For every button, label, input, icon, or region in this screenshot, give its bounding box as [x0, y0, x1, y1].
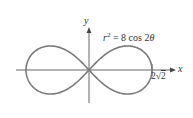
x-axis-label: x — [178, 63, 182, 74]
eq-theta: θ — [149, 32, 154, 43]
equation-label: r2 = 8 cos 2θ — [103, 31, 154, 43]
y-axis-label: y — [84, 15, 88, 26]
tick-radicand: 2 — [161, 71, 166, 81]
x-axis-arrow-icon — [170, 68, 176, 73]
tick-label-2root2: 2√2 — [151, 71, 166, 81]
eq-rhs: = 8 cos 2 — [110, 32, 149, 43]
lemniscate-diagram — [0, 0, 193, 118]
y-axis-arrow-icon — [87, 27, 92, 33]
